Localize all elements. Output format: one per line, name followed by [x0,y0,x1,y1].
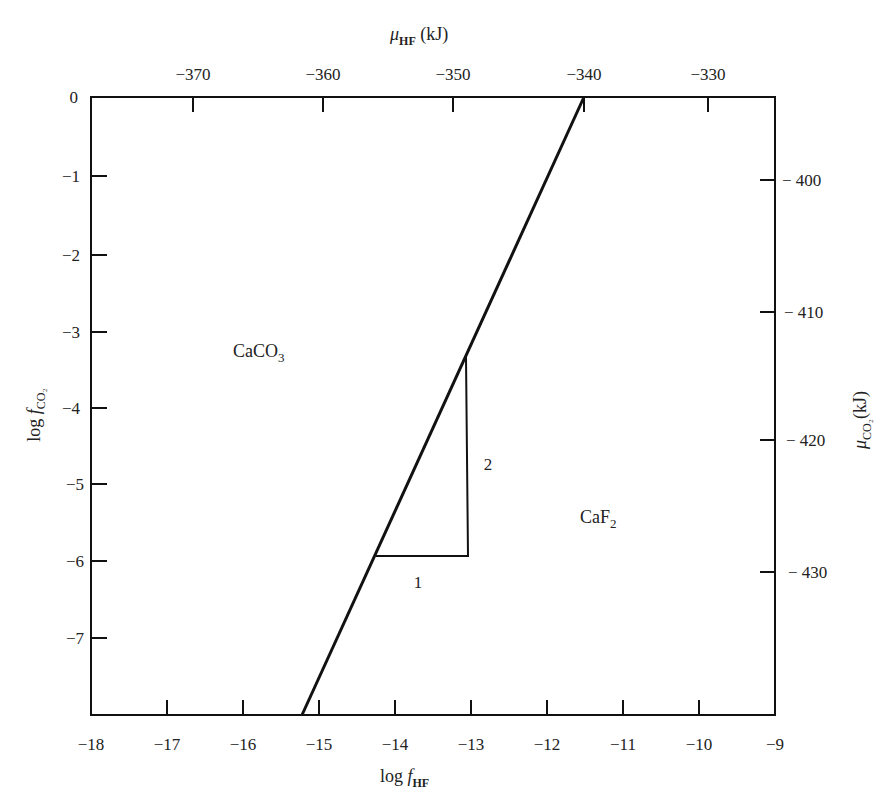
right-ticks [760,180,775,572]
svg-text:−330: −330 [690,65,725,84]
svg-text:−15: −15 [306,735,333,754]
top-ticks [193,97,708,112]
y-ticks [91,176,107,638]
svg-text:−2: −2 [62,246,80,265]
y-axis-title: log fCO₂ [24,388,48,441]
svg-text:−7: −7 [66,629,85,648]
svg-text:0: 0 [70,88,79,107]
top-tick-labels: −370 −360 −350 −340 −330 [175,65,725,84]
triangle-run-label: 1 [414,573,423,592]
svg-text:− 420: − 420 [786,431,825,450]
svg-text:−10: −10 [686,735,713,754]
phase-diagram: 1 2 CaCO3 CaF2 −18 −17 −16 −15 −14 −13 −… [0,0,891,808]
svg-text:−340: −340 [566,65,601,84]
x-axis-title: log fHF [380,766,429,790]
x-ticks [167,700,699,715]
x-tick-labels: −18 −17 −16 −15 −14 −13 −12 −11 −10 −9 [78,735,784,754]
svg-text:−12: −12 [534,735,561,754]
svg-text:− 430: − 430 [788,563,827,582]
svg-text:−11: −11 [610,735,636,754]
y-tick-labels: 0 −1 −2 −3 −4 −5 −6 −7 [62,88,85,648]
top-axis-title: μHF (kJ) [389,24,448,48]
svg-text:−350: −350 [435,65,470,84]
region-caco3-label: CaCO3 [233,341,285,365]
triangle-rise-label: 2 [484,455,493,474]
svg-text:− 400: − 400 [782,171,821,190]
svg-text:−13: −13 [458,735,485,754]
region-caf2-label: CaF2 [580,507,617,531]
svg-text:−9: −9 [766,735,784,754]
svg-text:− 410: − 410 [784,303,823,322]
phase-boundary-line [302,97,584,715]
svg-text:−6: −6 [66,552,84,571]
svg-text:−360: −360 [305,65,340,84]
right-axis-title: μCO₂(kJ) [850,391,874,450]
plot-frame [91,97,775,715]
svg-text:−3: −3 [62,323,80,342]
svg-text:−17: −17 [154,735,181,754]
svg-text:−14: −14 [382,735,409,754]
svg-text:−370: −370 [175,65,210,84]
right-tick-labels: − 400 − 410 − 420 − 430 [782,171,827,582]
svg-text:−16: −16 [230,735,257,754]
svg-text:−4: −4 [62,399,81,418]
svg-text:−5: −5 [66,475,84,494]
svg-text:−18: −18 [78,735,105,754]
svg-text:−1: −1 [62,167,80,186]
